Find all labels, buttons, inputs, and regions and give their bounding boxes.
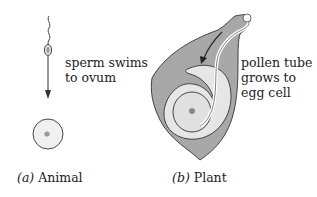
sperm-icon [44,16,51,56]
sperm-annotation: sperm swims to ovum [65,55,148,85]
ovule-diagram [151,14,251,160]
ovum-icon [33,119,63,149]
caption-animal: (a) Animal [17,170,83,185]
arrow-down-icon [45,56,51,99]
pollen-annotation: pollen tube grows to egg cell [241,55,312,100]
caption-plant: (b) Plant [172,170,227,185]
